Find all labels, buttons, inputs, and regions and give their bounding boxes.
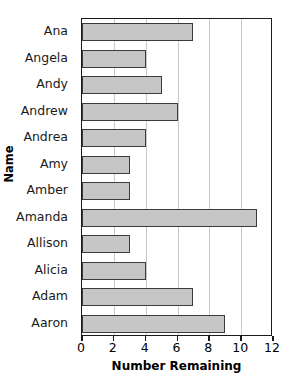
x-axis-tick-label: 0: [66, 340, 96, 355]
bar-row: [82, 72, 271, 99]
bar: [82, 209, 257, 227]
bar: [82, 235, 130, 253]
bar-row: [82, 178, 271, 205]
bar: [82, 129, 146, 147]
y-axis-tick-label: Andrea: [0, 129, 68, 144]
bar-chart: Name AnaAngelaAndyAndrewAndreaAmyAmberAm…: [0, 0, 284, 382]
y-axis-tick-label: Ana: [0, 23, 68, 38]
bar-row: [82, 311, 271, 338]
y-axis-tick-label: Alicia: [0, 262, 68, 277]
bar: [82, 262, 146, 280]
x-axis-title: Number Remaining: [81, 359, 272, 373]
x-axis-tick-label: 10: [225, 340, 255, 355]
bar: [82, 156, 130, 174]
bar: [82, 23, 193, 41]
y-axis-tick-label: Aaron: [0, 315, 68, 330]
y-axis-tick-label: Adam: [0, 288, 68, 303]
x-axis-tick-label: 4: [130, 340, 160, 355]
bar: [82, 315, 225, 333]
y-axis-tick-label: Andrew: [0, 103, 68, 118]
x-axis-tick-label: 12: [257, 340, 284, 355]
bar-row: [82, 125, 271, 152]
bar: [82, 288, 193, 306]
bar: [82, 103, 178, 121]
bar-series: [82, 19, 271, 335]
bar-row: [82, 152, 271, 179]
bar-row: [82, 231, 271, 258]
y-axis-tick-label: Andy: [0, 76, 68, 91]
bar: [82, 182, 130, 200]
bar-row: [82, 19, 271, 46]
plot-area: [81, 18, 272, 336]
bar: [82, 76, 162, 94]
y-axis-tick-label: Amber: [0, 182, 68, 197]
bar-row: [82, 46, 271, 73]
x-axis-tick-label: 6: [162, 340, 192, 355]
y-axis-tick-label: Angela: [0, 50, 68, 65]
y-axis-tick-label: Allison: [0, 235, 68, 250]
bar-row: [82, 284, 271, 311]
bar-row: [82, 99, 271, 126]
y-axis-tick-label: Amy: [0, 156, 68, 171]
bar-row: [82, 205, 271, 232]
y-axis-tick-label: Amanda: [0, 209, 68, 224]
bar: [82, 50, 146, 68]
x-axis-tick-label: 2: [98, 340, 128, 355]
bar-row: [82, 258, 271, 285]
x-axis-tick-label: 8: [193, 340, 223, 355]
